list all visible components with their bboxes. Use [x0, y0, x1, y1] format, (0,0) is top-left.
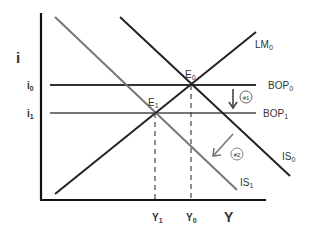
y0-label: Y0 [186, 212, 197, 224]
step2-label: #2 [234, 152, 241, 158]
is0-label: IS0 [282, 151, 295, 163]
i1-label: i1 [27, 108, 34, 120]
is1-label: IS1 [240, 177, 253, 189]
e1-label: E1 [148, 97, 159, 109]
step1-arrow-icon [229, 89, 237, 108]
bop0-label: BOP0 [268, 80, 293, 92]
step1-label: #1 [243, 95, 250, 101]
y1-label: Y1 [152, 212, 163, 224]
is1-curve [55, 17, 237, 190]
is-lm-bop-diagram: #1 #2 i Y i0 i1 Y1 Y0 LM0 BOP0 BOP1 IS0 … [0, 0, 309, 239]
e0-label: E0 [185, 69, 196, 81]
x-axis-label: Y [224, 209, 234, 225]
step2-arrow-icon [213, 134, 233, 156]
y-axis-label: i [16, 49, 20, 66]
bop1-label: BOP1 [263, 108, 288, 120]
i0-label: i0 [27, 80, 34, 92]
lm0-label: LM0 [255, 39, 273, 51]
